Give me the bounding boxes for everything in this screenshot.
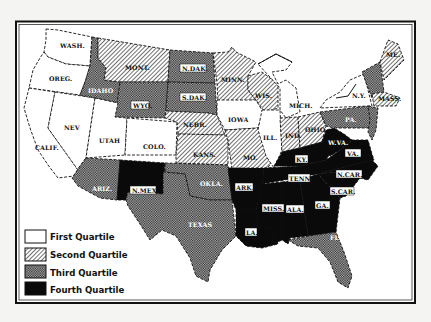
label-mass: MASS. <box>378 95 401 102</box>
label-kans: KANS. <box>193 151 216 158</box>
state-kans <box>176 134 228 165</box>
legend-label-fourth: Fourth Quartile <box>50 285 124 295</box>
label-ohio: OHIO <box>305 126 326 133</box>
label-nebr: NEBR. <box>183 121 207 128</box>
legend-label-third: Third Quartile <box>50 268 118 278</box>
legend-label-second: Second Quartile <box>50 250 128 260</box>
label-texas: TEXAS <box>188 221 212 228</box>
quartile-map: WASH. OREG. CALIF. NEV IDAHO MONT. WYO. … <box>0 0 431 322</box>
label-wis: WIS. <box>254 92 272 99</box>
label-iowa: IOWA <box>228 116 248 123</box>
legend-item-first: First Quartile <box>25 230 115 243</box>
label-ala: ALA. <box>286 206 304 213</box>
label-pa: PA. <box>345 116 357 123</box>
label-wva: W.VA. <box>327 139 348 146</box>
label-idaho: IDAHO <box>88 87 114 94</box>
label-wash: WASH. <box>59 42 85 49</box>
label-mich: MICH. <box>289 102 313 109</box>
legend-swatch-third <box>25 265 46 278</box>
label-ncar: N.CAR. <box>337 171 362 178</box>
label-minn: MINN. <box>221 76 245 83</box>
state-wyo <box>115 82 168 118</box>
label-ga: GA. <box>316 202 329 209</box>
label-mont: MONT. <box>125 64 150 71</box>
label-scar: S.CAR. <box>331 188 355 195</box>
label-wyo: WYO. <box>132 102 152 109</box>
label-ariz: ARIZ. <box>91 185 112 192</box>
label-colo: COLO. <box>143 143 166 150</box>
label-ny: N.Y. <box>352 92 366 99</box>
label-mo: MO. <box>243 154 258 161</box>
label-calif: CALIF. <box>35 144 59 151</box>
label-miss: MISS. <box>263 205 284 212</box>
label-ky: KY. <box>296 156 307 163</box>
label-ndak: N.DAK. <box>182 65 208 72</box>
label-ill: ILL. <box>263 134 277 141</box>
label-ark: ARK. <box>235 184 254 191</box>
legend-swatch-second <box>25 248 46 261</box>
label-nev: NEV <box>64 124 80 131</box>
label-tenn: TENN. <box>289 175 312 182</box>
label-okla: OKLA. <box>200 180 223 187</box>
label-me: ME. <box>386 51 400 58</box>
label-oreg: OREG. <box>49 75 72 82</box>
map-svg: WASH. OREG. CALIF. NEV IDAHO MONT. WYO. … <box>0 0 431 322</box>
label-fla: FLA. <box>330 234 346 241</box>
label-ind: IND. <box>285 132 302 139</box>
legend-item-second: Second Quartile <box>25 248 128 261</box>
label-nmex: N.MEX. <box>132 187 159 194</box>
label-la: LA. <box>246 229 258 236</box>
label-sdak: S.DAK. <box>182 94 207 101</box>
state-iowa <box>217 100 263 130</box>
label-utah: UTAH <box>99 137 120 144</box>
legend-label-first: First Quartile <box>50 232 115 242</box>
legend-swatch-first <box>25 230 46 243</box>
label-va: VA. <box>346 150 359 157</box>
legend-swatch-fourth <box>25 282 46 295</box>
